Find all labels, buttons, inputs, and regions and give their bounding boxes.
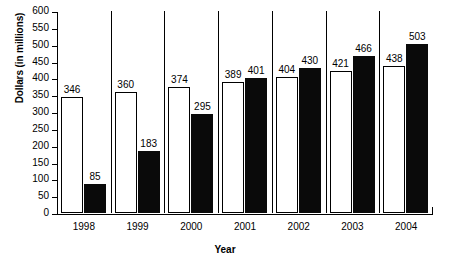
bar-dark[interactable] xyxy=(299,68,321,213)
bar-dark[interactable] xyxy=(191,114,213,213)
bar-chart: Dollars (in millions) 050100150200250300… xyxy=(0,0,450,274)
bar-light[interactable] xyxy=(330,71,352,213)
x-axis-tick-label: 2003 xyxy=(332,221,372,232)
bar-value-label: 466 xyxy=(348,43,380,54)
bar-light[interactable] xyxy=(383,66,405,213)
bar-value-label: 346 xyxy=(56,84,88,95)
group-separator xyxy=(326,11,327,213)
bar-group: 421466 xyxy=(326,11,380,213)
y-axis-tick-label: 400 xyxy=(19,72,49,83)
bar-dark[interactable] xyxy=(406,44,428,213)
bar-group: 34685 xyxy=(57,11,111,213)
bar-dark[interactable] xyxy=(84,184,106,213)
bar-group: 360183 xyxy=(111,11,165,213)
bar-dark[interactable] xyxy=(138,151,160,213)
x-axis-tick-label: 2002 xyxy=(279,221,319,232)
plot-area: 050100150200250300350400450500550600 346… xyxy=(57,12,433,214)
y-axis-tick-mark xyxy=(52,214,57,215)
group-separator xyxy=(218,11,219,213)
group-separator xyxy=(379,11,380,213)
bar-group: 438503 xyxy=(379,11,433,213)
bar-light[interactable] xyxy=(276,77,298,213)
x-axis-tick-label: 1999 xyxy=(118,221,158,232)
bar-value-label: 374 xyxy=(163,74,195,85)
bar-group: 389401 xyxy=(218,11,272,213)
group-separator xyxy=(272,11,273,213)
x-axis-title: Year xyxy=(0,244,450,255)
bar-light[interactable] xyxy=(222,82,244,213)
y-axis-tick-label: 550 xyxy=(19,22,49,33)
y-axis-tick-label: 200 xyxy=(19,140,49,151)
bar-light[interactable] xyxy=(115,92,137,213)
y-axis-tick-label: 150 xyxy=(19,157,49,168)
bar-group: 404430 xyxy=(272,11,326,213)
bar-value-label: 85 xyxy=(79,171,111,182)
y-axis-tick-label: 100 xyxy=(19,173,49,184)
x-axis-tick-label: 2004 xyxy=(386,221,426,232)
group-separator xyxy=(164,11,165,213)
bar-value-label: 183 xyxy=(133,138,165,149)
y-axis-tick-label: 500 xyxy=(19,39,49,50)
bar-value-label: 430 xyxy=(294,55,326,66)
bar-value-label: 401 xyxy=(240,65,272,76)
y-axis-tick-label: 250 xyxy=(19,123,49,134)
bar-group: 374295 xyxy=(164,11,218,213)
bar-dark[interactable] xyxy=(353,56,375,213)
x-axis-line xyxy=(57,214,433,215)
y-axis-tick-label: 600 xyxy=(19,5,49,16)
y-axis-tick-label: 0 xyxy=(19,207,49,218)
bar-value-label: 503 xyxy=(401,31,433,42)
x-axis-tick-label: 2000 xyxy=(171,221,211,232)
bar-value-label: 360 xyxy=(110,79,142,90)
y-axis-tick-label: 450 xyxy=(19,56,49,67)
group-separator xyxy=(111,11,112,213)
x-axis-tick-label: 1998 xyxy=(64,221,104,232)
y-axis-tick-label: 50 xyxy=(19,190,49,201)
x-axis-tick-label: 2001 xyxy=(225,221,265,232)
bar-light[interactable] xyxy=(61,97,83,213)
bar-value-label: 295 xyxy=(186,101,218,112)
y-axis-tick-label: 300 xyxy=(19,106,49,117)
y-axis-tick-label: 350 xyxy=(19,89,49,100)
bar-dark[interactable] xyxy=(245,78,267,213)
